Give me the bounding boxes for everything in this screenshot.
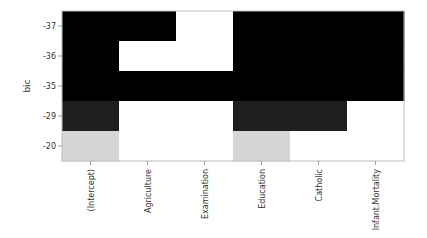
heatmap-cell [233,101,291,132]
heatmap-cell [347,131,405,162]
x-tick-label: Infant.Mortality [372,169,381,231]
heatmap-cell [176,11,234,42]
heatmap-cell [233,41,291,72]
heatmap-cell [290,131,348,162]
heatmap-cell [290,101,348,132]
heatmap-cell [233,71,291,102]
heatmap-cell [290,41,348,72]
heatmap-cell [347,101,405,132]
x-tick-label: Agriculture [144,169,153,213]
heatmap-cell [347,41,405,72]
y-tick-label: -20 [43,142,56,151]
heatmap-cell [119,101,177,132]
y-tick-label: -35 [43,82,56,91]
heatmap-cell [119,71,177,102]
heatmap-cell [347,11,405,42]
heatmap-cell [119,131,177,162]
heatmap-cell [176,131,234,162]
heatmap-cell [347,71,405,102]
y-axis: -37-36-35-29-20 [43,22,62,151]
heatmap-cell [62,41,120,72]
heatmap-cell [62,131,120,162]
x-tick-label: Examination [201,169,210,219]
heatmap-cell [62,101,120,132]
heatmap-cell [233,11,291,42]
heatmap-cell [176,101,234,132]
heatmap-cell [62,11,120,42]
x-tick-label: Catholic [315,169,324,201]
x-tick-label: Education [258,169,267,209]
heatmap-cell [233,131,291,162]
heatmap-cell [290,11,348,42]
y-tick-label: -36 [43,52,56,61]
heatmap-cells [62,11,405,162]
bic-heatmap-chart: -37-36-35-29-20 (Intercept)AgricultureEx… [0,0,427,238]
y-tick-label: -29 [43,112,56,121]
heatmap-cell [119,41,177,72]
heatmap-cell [62,71,120,102]
heatmap-cell [290,71,348,102]
x-tick-label: (Intercept) [87,169,96,211]
heatmap-cell [176,41,234,72]
y-axis-label: bic [22,79,32,92]
heatmap-cell [119,11,177,42]
x-axis: (Intercept)AgricultureExaminationEducati… [87,161,381,230]
y-tick-label: -37 [43,22,56,31]
heatmap-cell [176,71,234,102]
